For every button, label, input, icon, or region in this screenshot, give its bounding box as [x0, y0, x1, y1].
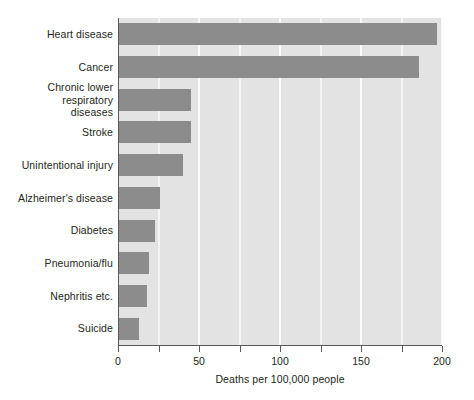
bar	[118, 220, 155, 242]
bar	[118, 154, 183, 176]
category-label-line: Unintentional injury	[0, 159, 113, 172]
category-label-line: Nephritis etc.	[0, 290, 113, 303]
category-label: Cancer	[0, 61, 113, 74]
plot-area	[118, 18, 442, 345]
category-label: Suicide	[0, 322, 113, 335]
x-tick-label: 50	[193, 355, 205, 367]
bar	[118, 23, 437, 45]
x-tick	[442, 346, 443, 352]
bar	[118, 252, 149, 274]
category-label: Stroke	[0, 126, 113, 139]
category-label-line: respiratory	[0, 94, 113, 107]
category-label-line: Cancer	[0, 61, 113, 74]
category-label-line: Heart disease	[0, 28, 113, 41]
bar-chart: Heart diseaseCancerChronic lowerrespirat…	[0, 0, 474, 400]
category-label-line: Stroke	[0, 126, 113, 139]
category-label: Heart disease	[0, 28, 113, 41]
category-label-line: Pneumonia/flu	[0, 257, 113, 270]
category-axis-labels: Heart diseaseCancerChronic lowerrespirat…	[0, 18, 113, 345]
x-axis-title: Deaths per 100,000 people	[118, 373, 442, 385]
x-tick-label: 200	[433, 355, 451, 367]
x-tick-label: 150	[352, 355, 370, 367]
x-tick	[402, 346, 403, 352]
bar	[118, 121, 191, 143]
x-tick	[321, 346, 322, 352]
bar	[118, 56, 419, 78]
category-label: Nephritis etc.	[0, 290, 113, 303]
category-label: Alzheimer's disease	[0, 192, 113, 205]
category-label: Chronic lowerrespiratorydiseases	[0, 81, 113, 119]
x-tick	[361, 346, 362, 352]
x-tick	[240, 346, 241, 352]
x-tick-label: 100	[271, 355, 289, 367]
y-axis-line	[118, 18, 119, 346]
bar	[118, 187, 160, 209]
category-label: Unintentional injury	[0, 159, 113, 172]
x-tick	[199, 346, 200, 352]
x-tick	[118, 346, 119, 352]
category-label-line: Alzheimer's disease	[0, 192, 113, 205]
category-label-line: Chronic lower	[0, 81, 113, 94]
category-label-line: Suicide	[0, 322, 113, 335]
category-label: Diabetes	[0, 224, 113, 237]
category-label: Pneumonia/flu	[0, 257, 113, 270]
category-label-line: diseases	[0, 106, 113, 119]
category-label-line: Diabetes	[0, 224, 113, 237]
x-tick	[280, 346, 281, 352]
gridline	[441, 18, 442, 345]
x-tick-label: 0	[115, 355, 121, 367]
bar	[118, 285, 147, 307]
bar	[118, 318, 139, 340]
bar	[118, 89, 191, 111]
x-tick	[159, 346, 160, 352]
